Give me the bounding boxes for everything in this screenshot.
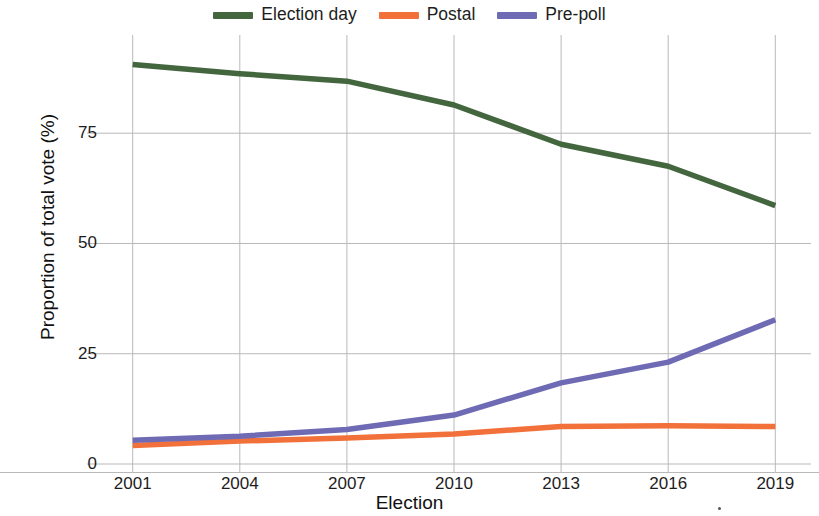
grid-lines [87,35,811,472]
legend-label-postal: Postal [427,6,476,24]
y-axis-title: Proportion of total vote (%) [37,82,59,372]
x-axis-title: Election [0,492,819,514]
legend-entry-election-day: Election day [213,6,356,24]
y-tick-label: 25 [53,344,97,364]
legend-entry-postal: Postal [379,6,476,24]
legend-label-election-day: Election day [261,6,356,24]
legend-swatch-postal [379,12,419,19]
x-tick-label: 2007 [312,474,382,494]
chart-canvas [0,30,819,516]
x-tick-label: 2010 [419,474,489,494]
chart-legend: Election day Postal Pre-poll [0,0,819,30]
x-tick-label: 2004 [205,474,275,494]
y-tick-label: 75 [53,123,97,143]
x-tick-label: 2016 [633,474,703,494]
legend-label-pre-poll: Pre-poll [545,6,605,24]
chart-figure: Election day Postal Pre-poll 0255075 200… [0,0,819,516]
x-tick-label: 2013 [526,474,596,494]
legend-swatch-election-day [213,12,253,19]
x-tick-label: 2001 [98,474,168,494]
stray-dot-artifact [718,507,721,510]
x-tick-label: 2019 [740,474,810,494]
legend-swatch-pre-poll [497,12,537,19]
plot-area: 0255075 2001200420072010201320162019 Pro… [0,30,819,516]
y-tick-label: 50 [53,233,97,253]
legend-entry-pre-poll: Pre-poll [497,6,605,24]
